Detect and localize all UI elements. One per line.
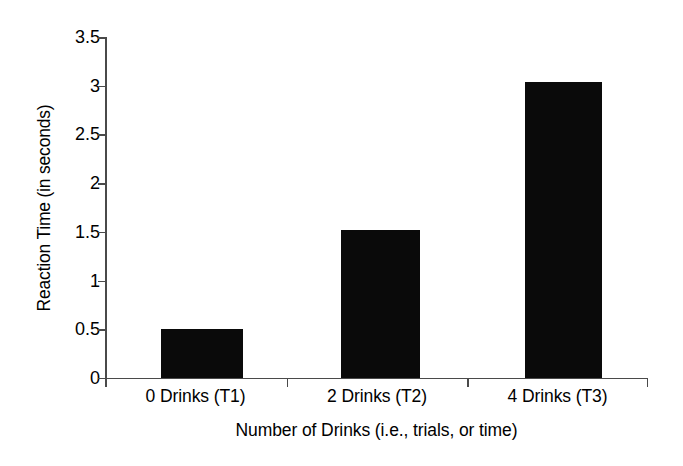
y-axis-line — [105, 37, 107, 379]
x-tick-mark-1 — [287, 378, 289, 387]
y-tick-label-2: 2 — [40, 174, 100, 192]
x-tick-mark-start — [105, 378, 107, 387]
bar-0-drinks — [161, 329, 243, 378]
y-tick-label-2.5: 2.5 — [40, 125, 100, 143]
x-tick-label-2-drinks: 2 Drinks (T2) — [287, 388, 468, 406]
y-tick-label-0: 0 — [40, 369, 100, 387]
bar-chart-figure: Reaction Time (in seconds) 3.5 3 2.5 2 1… — [0, 0, 683, 466]
x-axis-title: Number of Drinks (i.e., trials, or time) — [105, 422, 648, 440]
y-tick-label-1.5: 1.5 — [40, 223, 100, 241]
x-tick-label-4-drinks: 4 Drinks (T3) — [467, 388, 648, 406]
bar-2-drinks — [341, 230, 420, 378]
x-tick-mark-2 — [467, 378, 469, 387]
x-tick-mark-end — [647, 378, 649, 387]
y-tick-label-3.5: 3.5 — [40, 28, 100, 46]
x-tick-label-0-drinks: 0 Drinks (T1) — [105, 388, 286, 406]
y-tick-label-3: 3 — [40, 77, 100, 95]
y-tick-label-0.5: 0.5 — [40, 320, 100, 338]
y-tick-label-1: 1 — [40, 272, 100, 290]
bar-4-drinks — [525, 82, 602, 378]
